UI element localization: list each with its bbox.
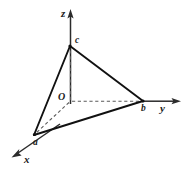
x-axis-label: x	[24, 154, 30, 165]
triangle-group	[34, 46, 143, 135]
edge-c-to-b	[70, 46, 143, 101]
vertex-label-c: c	[75, 36, 79, 46]
vertex-dot-c	[68, 44, 71, 47]
coordinate-figure: z y x O a b c	[0, 0, 185, 173]
origin-label: O	[58, 92, 65, 102]
y-axis-label: y	[160, 103, 165, 114]
figure-canvas	[0, 0, 185, 173]
vertex-dot-a	[33, 133, 36, 136]
z-axis-label: z	[61, 8, 65, 19]
x-axis-arrowhead	[12, 149, 22, 158]
vertex-label-a: a	[33, 138, 38, 148]
vertex-label-b: b	[141, 104, 146, 114]
edge-a-to-b	[34, 101, 143, 135]
